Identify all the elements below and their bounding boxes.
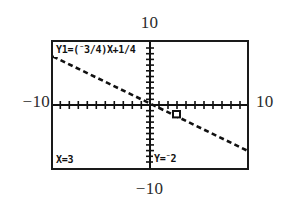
graph-canvas xyxy=(53,42,247,168)
window-label-xmax: 10 xyxy=(256,93,298,110)
equation-negative-sign: ⁻ xyxy=(79,43,84,53)
equation-body: 3/4)X+1/4 xyxy=(84,44,136,55)
trace-y-value: 2 xyxy=(171,153,177,164)
trace-x-value: 3 xyxy=(67,154,73,165)
plot-area[interactable] xyxy=(53,42,247,168)
trace-x-readout: X=3 xyxy=(55,153,75,166)
window-label-xmin: −10 xyxy=(8,93,50,110)
equation-display: Y1=(⁻3/4)X+1/4 xyxy=(54,43,137,57)
equation-prefix: Y1=( xyxy=(56,44,79,55)
trace-y-label: Y= xyxy=(154,153,165,164)
trace-y-readout: Y=⁻2 xyxy=(153,152,178,166)
trace-y-negative-sign: ⁻ xyxy=(165,152,170,162)
window-label-ymax: 10 xyxy=(0,14,299,31)
graphing-calculator-screen[interactable]: Y1=(⁻3/4)X+1/4 X=3 Y=⁻2 xyxy=(51,40,249,170)
trace-cursor-marker xyxy=(173,111,180,117)
window-label-ymin: −10 xyxy=(0,180,299,197)
trace-x-label: X= xyxy=(56,154,67,165)
